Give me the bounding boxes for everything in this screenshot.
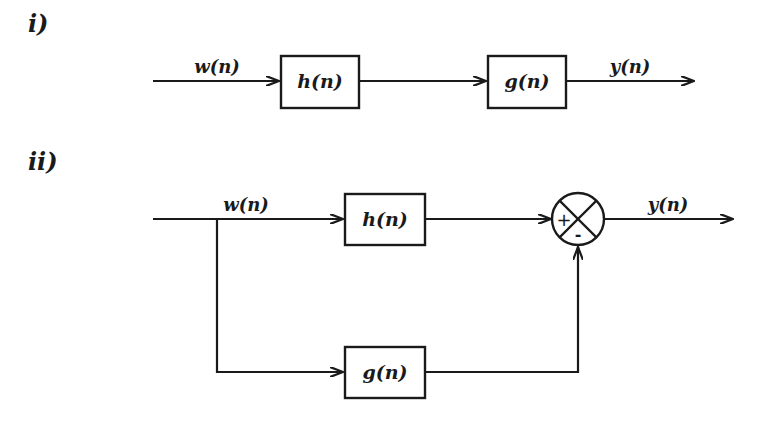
section-label-i: i) xyxy=(28,9,48,38)
output-label-y-i: y(n) xyxy=(609,56,651,77)
block-h-i-label: h(n) xyxy=(297,70,343,92)
diagram-i: i) w(n) h(n) g(n) y(n) xyxy=(28,9,694,108)
g-to-sum-arrow xyxy=(425,247,578,372)
block-diagram: i) w(n) h(n) g(n) y(n) ii) w(n) h(n) g(n… xyxy=(0,0,763,427)
minus-sign: - xyxy=(575,225,582,244)
output-label-y-ii: y(n) xyxy=(647,194,689,215)
input-label-w-ii: w(n) xyxy=(223,194,269,215)
block-h-ii-label: h(n) xyxy=(362,208,408,230)
block-g-i-label: g(n) xyxy=(504,70,549,92)
summing-junction: + - xyxy=(552,193,604,245)
diagram-ii: ii) w(n) h(n) g(n) + - y(n) xyxy=(28,147,733,398)
section-label-ii: ii) xyxy=(28,147,58,176)
plus-sign: + xyxy=(556,209,571,230)
branch-arrow-to-g xyxy=(217,219,343,372)
block-g-ii-label: g(n) xyxy=(362,361,407,383)
input-label-w-i: w(n) xyxy=(194,56,240,77)
